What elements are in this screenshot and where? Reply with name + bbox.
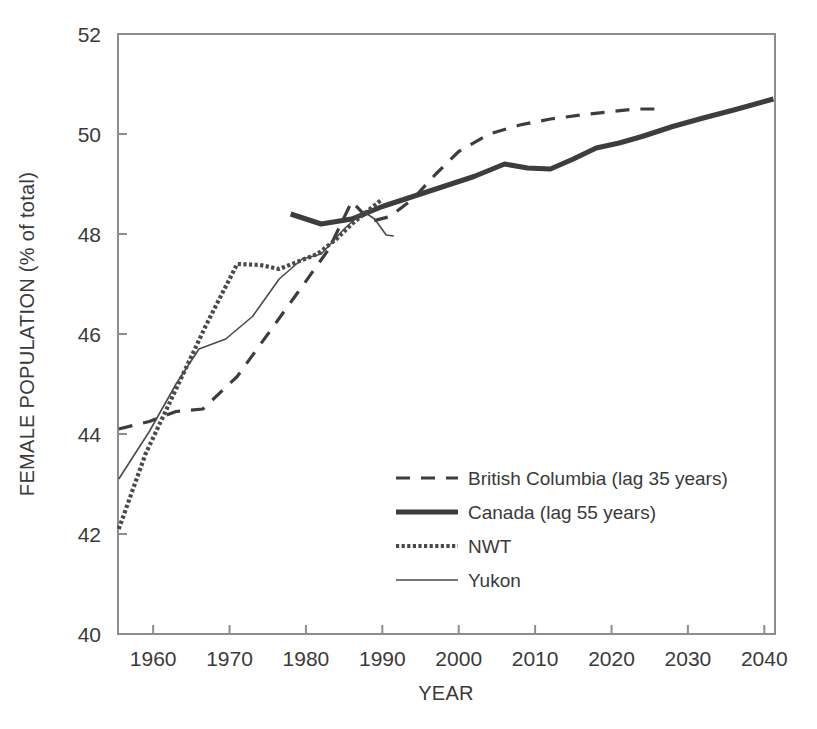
y-tick-label-48: 48 (78, 223, 101, 246)
x-tick-label-2020: 2020 (588, 647, 635, 670)
x-tick-label-1990: 1990 (359, 647, 406, 670)
x-tick-label-2040: 2040 (741, 647, 788, 670)
y-tick-label-46: 46 (78, 323, 101, 346)
x-tick-label-1970: 1970 (206, 647, 253, 670)
x-tick-label-2030: 2030 (665, 647, 712, 670)
chart-figure: 196019701980199020002010202020302040 404… (0, 0, 817, 729)
legend-label-1: Canada (lag 55 years) (468, 502, 656, 523)
x-tick-label-2010: 2010 (512, 647, 559, 670)
y-tick-label-40: 40 (78, 623, 101, 646)
legend-label-2: NWT (468, 536, 512, 557)
y-tick-label-42: 42 (78, 523, 101, 546)
chart-canvas: 196019701980199020002010202020302040 404… (0, 0, 817, 729)
y-tick-label-52: 52 (78, 23, 101, 46)
x-tick-label-2000: 2000 (435, 647, 482, 670)
y-tick-label-44: 44 (78, 423, 102, 446)
y-axis-label: FEMALE POPULATION (% of total) (16, 172, 38, 496)
legend-label-3: Yukon (468, 570, 521, 591)
x-tick-label-1980: 1980 (283, 647, 330, 670)
x-tick-label-1960: 1960 (130, 647, 177, 670)
x-axis-tick-labels: 196019701980199020002010202020302040 (130, 647, 788, 670)
legend-label-0: British Columbia (lag 35 years) (468, 468, 728, 489)
x-axis-label: YEAR (418, 682, 474, 704)
chart-background (0, 0, 817, 729)
y-tick-label-50: 50 (78, 123, 101, 146)
